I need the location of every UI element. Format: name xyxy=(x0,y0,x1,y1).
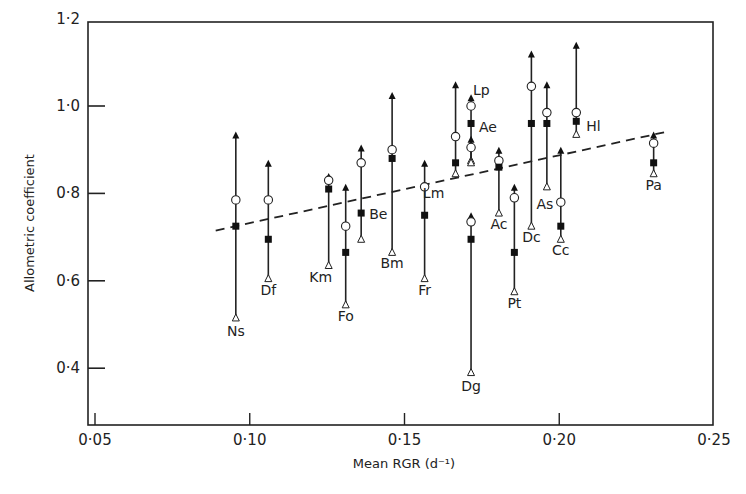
open-triangle-icon xyxy=(265,275,272,282)
plot-frame xyxy=(88,22,713,425)
filled-square-icon xyxy=(265,236,272,243)
filled-triangle-icon xyxy=(573,42,580,49)
open-circle-icon xyxy=(510,194,518,202)
point-label: Cc xyxy=(552,242,569,258)
open-triangle-icon xyxy=(511,288,518,295)
open-circle-icon xyxy=(388,146,396,154)
x-axis: 0·050·100·150·200·25 xyxy=(78,413,730,449)
open-circle-icon xyxy=(467,218,475,226)
open-triangle-icon xyxy=(389,248,396,255)
series-km: Km xyxy=(309,173,333,285)
filled-square-icon xyxy=(573,118,580,125)
open-circle-icon xyxy=(467,102,475,110)
series-fr: Fr xyxy=(418,160,431,298)
point-label: Pt xyxy=(507,295,521,311)
open-circle-icon xyxy=(357,159,365,167)
filled-square-icon xyxy=(557,223,564,230)
series-bm: Bm xyxy=(380,92,403,271)
filled-triangle-icon xyxy=(389,92,396,99)
filled-triangle-icon xyxy=(528,51,535,58)
open-triangle-icon xyxy=(468,369,475,376)
series-dc: Dc xyxy=(522,51,540,246)
filled-triangle-icon xyxy=(495,147,502,154)
filled-triangle-icon xyxy=(557,147,564,154)
filled-triangle-icon xyxy=(468,136,475,143)
series-dg: Dg xyxy=(461,212,481,393)
point-label: Km xyxy=(309,269,332,285)
open-triangle-icon xyxy=(325,262,332,269)
series-pt: Pt xyxy=(507,184,521,311)
point-label: Fr xyxy=(418,282,431,298)
point-label: Lm xyxy=(423,185,444,201)
y-tick-label: 0·8 xyxy=(56,184,80,202)
point-label: Ae xyxy=(479,119,497,135)
open-triangle-icon xyxy=(543,183,550,190)
point-label: Lp xyxy=(473,82,490,98)
open-triangle-icon xyxy=(232,314,239,321)
x-tick-label: 0·10 xyxy=(233,431,266,449)
open-circle-icon xyxy=(341,222,349,230)
open-triangle-icon xyxy=(495,209,502,216)
filled-square-icon xyxy=(325,186,332,193)
open-circle-icon xyxy=(649,139,657,147)
filled-square-icon xyxy=(232,223,239,230)
open-triangle-icon xyxy=(573,130,580,137)
series-cc: Cc xyxy=(552,147,569,259)
open-triangle-icon xyxy=(342,301,349,308)
filled-square-icon xyxy=(495,164,502,171)
open-circle-icon xyxy=(324,176,332,184)
point-label: Be xyxy=(369,206,387,222)
point-label: As xyxy=(536,196,553,212)
y-axis: 0·40·60·81·01·2 xyxy=(56,10,105,378)
open-circle-icon xyxy=(527,82,535,90)
open-circle-icon xyxy=(467,143,475,151)
filled-triangle-icon xyxy=(511,184,518,191)
x-tick-label: 0·25 xyxy=(697,431,730,449)
open-triangle-icon xyxy=(557,235,564,242)
filled-triangle-icon xyxy=(342,184,349,191)
point-label: Fo xyxy=(338,308,354,324)
filled-triangle-icon xyxy=(265,160,272,167)
point-label: Ns xyxy=(227,323,245,339)
filled-square-icon xyxy=(452,159,459,166)
x-axis-title: Mean RGR (d⁻¹) xyxy=(353,456,455,471)
filled-square-icon xyxy=(389,155,396,162)
open-circle-icon xyxy=(451,132,459,140)
dashed-regression-line xyxy=(216,132,665,230)
open-triangle-icon xyxy=(650,170,657,177)
series-pa: Pa xyxy=(645,131,661,192)
open-circle-icon xyxy=(495,156,503,164)
y-tick-label: 1·0 xyxy=(56,97,80,115)
filled-square-icon xyxy=(511,249,518,256)
open-triangle-icon xyxy=(358,235,365,242)
open-circle-icon xyxy=(543,108,551,116)
series-as: As xyxy=(536,81,553,212)
regression-line xyxy=(216,132,665,230)
series-fo: Fo xyxy=(338,184,354,324)
open-circle-icon xyxy=(557,198,565,206)
open-circle-icon xyxy=(232,196,240,204)
data-series: NsDfKmFoBeBmFrLmLpAeDgAcPtDcAsCcHlPa xyxy=(227,42,662,394)
filled-square-icon xyxy=(342,249,349,256)
filled-triangle-icon xyxy=(421,160,428,167)
point-label: Hl xyxy=(586,118,600,134)
allometric-chart: 0·40·60·81·01·2 0·050·100·150·200·25 NsD… xyxy=(0,0,746,494)
filled-square-icon xyxy=(528,120,535,127)
point-label: Bm xyxy=(380,255,403,271)
point-label: Dc xyxy=(522,229,540,245)
y-tick-label: 0·4 xyxy=(56,359,80,377)
filled-square-icon xyxy=(468,236,475,243)
filled-square-icon xyxy=(543,120,550,127)
point-label: Pa xyxy=(645,177,661,193)
point-label: Ac xyxy=(490,216,507,232)
open-triangle-icon xyxy=(421,275,428,282)
x-tick-label: 0·15 xyxy=(388,431,421,449)
filled-square-icon xyxy=(468,120,475,127)
open-circle-icon xyxy=(572,108,580,116)
filled-square-icon xyxy=(650,159,657,166)
x-tick-label: 0·05 xyxy=(78,431,111,449)
series-hl: Hl xyxy=(572,42,601,138)
filled-triangle-icon xyxy=(358,145,365,152)
filled-square-icon xyxy=(421,212,428,219)
filled-triangle-icon xyxy=(452,81,459,88)
